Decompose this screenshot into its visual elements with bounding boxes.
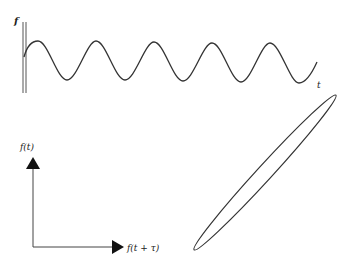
- phase-x-axis-label: f(t + τ): [126, 243, 160, 253]
- y-axis-arrow-icon: [26, 157, 40, 169]
- phase-y-axis-label: f(t): [19, 142, 34, 152]
- sine-wave-curve: [24, 41, 317, 83]
- x-axis-arrow-icon: [112, 240, 124, 254]
- time-series-plot: f t: [13, 15, 321, 93]
- time-series-y-label: f: [13, 15, 20, 26]
- diagram-canvas: f t f(t) f(t + τ): [0, 0, 351, 269]
- time-series-x-label: t: [317, 80, 321, 90]
- phase-ellipse: [189, 90, 342, 255]
- phase-axes: f(t) f(t + τ): [19, 142, 160, 254]
